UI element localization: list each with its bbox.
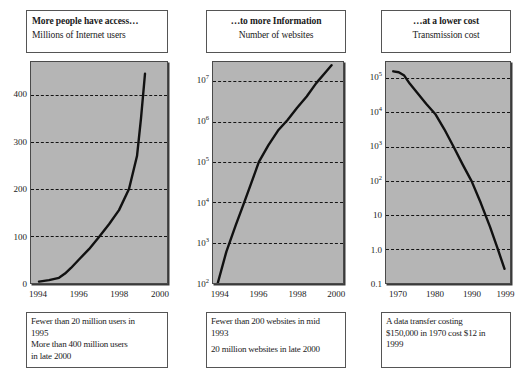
y-axis-labels: 0.11.010102103104105	[363, 61, 385, 284]
y-tick-label: 103	[370, 142, 382, 151]
y-tick-label: 100	[14, 232, 28, 241]
header-title: More people have access…	[32, 15, 162, 28]
x-tick-label: 1996	[250, 289, 268, 300]
data-curve	[39, 74, 145, 282]
header-box-internet-users: More people have access…Millions of Inte…	[26, 10, 168, 53]
chart-transmission-cost: 0.11.0101021031041051970198019901999	[363, 61, 515, 306]
y-tick-label: 102	[370, 176, 382, 185]
y-tick-label: 300	[14, 137, 28, 146]
x-tick-label: 1998	[288, 289, 306, 300]
y-tick-label: 103	[197, 239, 209, 248]
x-tick-label: 1998	[110, 289, 128, 300]
y-tick-label: 107	[197, 76, 209, 85]
plot-area	[31, 62, 167, 283]
plot-frame	[30, 61, 168, 284]
caption-line: 20 million websites in late 2000	[211, 344, 342, 356]
y-tick-label: 104	[370, 107, 382, 116]
chart-internet-users: 01002003004001994199619982000	[8, 61, 174, 306]
panel-transmission-cost: …at a lower costTransmission cost0.11.01…	[363, 0, 515, 376]
internet-growth-figure: More people have access…Millions of Inte…	[0, 0, 519, 376]
x-tick-label: 1990	[463, 289, 481, 300]
curve-svg	[31, 62, 167, 283]
caption-line: 1993	[211, 328, 342, 340]
y-axis-labels: 102103104105106107	[186, 61, 212, 284]
panel-websites: …to more InformationNumber of websites10…	[186, 0, 352, 376]
plot-frame	[385, 61, 511, 284]
x-tick-label: 1999	[496, 289, 514, 300]
x-tick-label: 1980	[426, 289, 444, 300]
header-subtitle: Millions of Internet users	[32, 28, 162, 42]
x-axis-labels: 1970198019901999	[385, 289, 511, 303]
header-title: …to more Information	[212, 15, 340, 28]
data-curve	[218, 65, 332, 283]
x-tick-label: 2000	[327, 289, 345, 300]
x-tick-label: 1994	[211, 289, 229, 300]
plot-area	[213, 62, 343, 283]
caption-line: in late 2000	[31, 351, 164, 363]
caption-line: 1995	[31, 328, 164, 340]
header-title: …at a lower cost	[387, 15, 505, 28]
caption-line: A data transfer costing	[386, 316, 507, 328]
header-box-websites: …to more InformationNumber of websites	[206, 10, 346, 53]
caption-line: $150,000 in 1970 cost $12 in	[386, 328, 507, 340]
curve-svg	[386, 62, 510, 283]
y-tick-label: 105	[197, 157, 209, 166]
caption-line: Fewer than 20 million users in	[31, 316, 164, 328]
y-tick-label: 1.0	[371, 245, 382, 254]
plot-frame	[212, 61, 344, 284]
x-axis-labels: 1994199619982000	[212, 289, 344, 303]
chart-websites: 1021031041051061071994199619982000	[186, 61, 352, 306]
data-curve	[393, 71, 504, 269]
y-tick-label: 0.1	[371, 280, 382, 289]
y-tick-label: 200	[14, 185, 28, 194]
curve-svg	[213, 62, 343, 283]
plot-area	[386, 62, 510, 283]
x-tick-label: 2000	[151, 289, 169, 300]
caption-line: Fewer than 200 websites in mid	[211, 316, 342, 328]
caption-box-websites: Fewer than 200 websites in mid199320 mil…	[206, 312, 346, 368]
x-tick-label: 1970	[389, 289, 407, 300]
x-tick-label: 1996	[70, 289, 88, 300]
y-tick-label: 10	[373, 211, 382, 220]
y-tick-label: 106	[197, 117, 209, 126]
caption-line: More than 400 million users	[31, 339, 164, 351]
caption-line: 1999	[386, 339, 507, 351]
header-subtitle: Number of websites	[212, 28, 340, 42]
panel-internet-users: More people have access…Millions of Inte…	[8, 0, 174, 376]
x-tick-label: 1994	[29, 289, 47, 300]
caption-box-transmission-cost: A data transfer costing$150,000 in 1970 …	[381, 312, 511, 368]
y-axis-labels: 0100200300400	[8, 61, 30, 284]
y-tick-label: 102	[197, 280, 209, 289]
header-box-transmission-cost: …at a lower costTransmission cost	[381, 10, 511, 53]
x-axis-labels: 1994199619982000	[30, 289, 168, 303]
header-subtitle: Transmission cost	[387, 28, 505, 42]
y-tick-label: 0	[23, 280, 28, 289]
caption-box-internet-users: Fewer than 20 million users in1995More t…	[26, 312, 168, 368]
y-tick-label: 104	[197, 198, 209, 207]
y-tick-label: 105	[370, 73, 382, 82]
y-tick-label: 400	[14, 90, 28, 99]
